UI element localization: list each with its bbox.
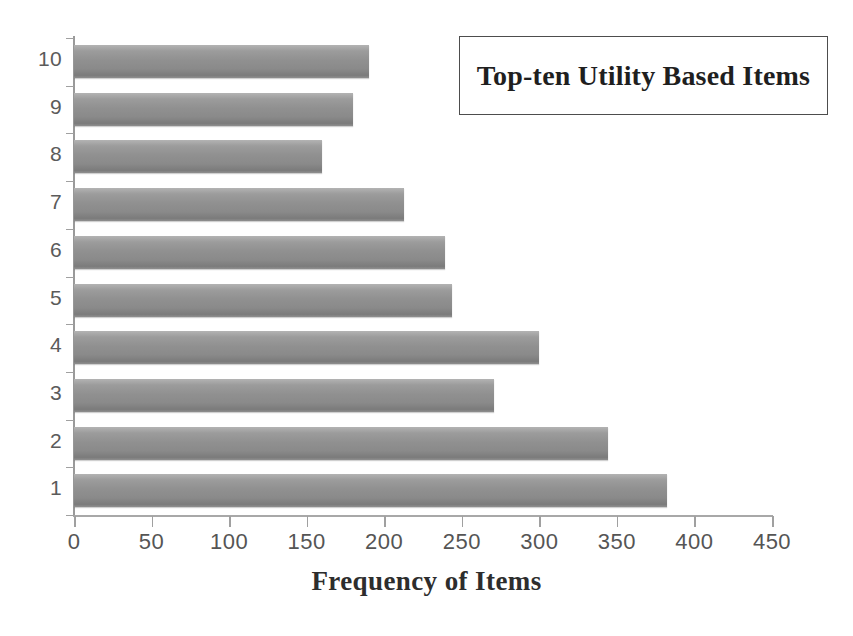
x-tick-label-200: 200	[349, 529, 419, 555]
y-tick-mark	[66, 515, 74, 516]
x-tick-mark	[617, 516, 619, 527]
bar-row	[74, 420, 772, 468]
x-tick-label-150: 150	[272, 529, 342, 555]
bar-9	[74, 93, 353, 126]
bar-row	[74, 181, 772, 229]
bar-2	[74, 427, 608, 460]
x-tick-mark	[462, 516, 464, 527]
x-tick-mark	[74, 516, 76, 527]
x-axis-line	[73, 515, 773, 517]
x-axis-title: Frequency of Items	[0, 566, 853, 597]
bar-chart: 10987654321 050100150200250300350400450 …	[0, 0, 853, 636]
y-tick-label-4: 4	[16, 333, 62, 357]
y-tick-mark	[66, 277, 74, 278]
bar-row	[74, 467, 772, 515]
x-tick-mark	[772, 516, 774, 527]
x-tick-mark	[307, 516, 309, 527]
x-tick-label-450: 450	[737, 529, 807, 555]
y-tick-mark	[66, 372, 74, 373]
y-axis-tick-labels: 10987654321	[0, 38, 62, 515]
x-tick-label-400: 400	[659, 529, 729, 555]
y-tick-mark	[66, 181, 74, 182]
x-tick-mark	[152, 516, 154, 527]
y-tick-label-5: 5	[16, 286, 62, 310]
x-tick-mark	[539, 516, 541, 527]
y-tick-label-7: 7	[16, 190, 62, 214]
bar-8	[74, 140, 322, 173]
y-tick-mark	[66, 420, 74, 421]
bar-row	[74, 133, 772, 181]
y-tick-label-3: 3	[16, 381, 62, 405]
y-tick-label-8: 8	[16, 142, 62, 166]
y-tick-mark	[66, 229, 74, 230]
y-tick-label-1: 1	[16, 476, 62, 500]
x-tick-mark	[384, 516, 386, 527]
bar-row	[74, 372, 772, 420]
x-tick-label-300: 300	[504, 529, 574, 555]
bar-4	[74, 331, 539, 364]
y-tick-mark	[66, 133, 74, 134]
y-tick-mark	[66, 86, 74, 87]
bar-row	[74, 229, 772, 277]
x-tick-label-350: 350	[582, 529, 652, 555]
y-tick-label-6: 6	[16, 238, 62, 262]
x-tick-label-0: 0	[39, 529, 109, 555]
bar-10	[74, 45, 369, 78]
bar-row	[74, 277, 772, 325]
legend-box: Top-ten Utility Based Items	[459, 36, 828, 115]
x-tick-label-250: 250	[427, 529, 497, 555]
bar-3	[74, 379, 494, 412]
y-tick-label-10: 10	[16, 47, 62, 71]
bar-1	[74, 474, 667, 507]
y-tick-mark	[66, 38, 74, 39]
y-tick-label-9: 9	[16, 95, 62, 119]
y-tick-label-2: 2	[16, 429, 62, 453]
bar-6	[74, 236, 445, 269]
y-tick-mark	[66, 324, 74, 325]
bar-row	[74, 324, 772, 372]
legend-label: Top-ten Utility Based Items	[477, 60, 810, 92]
bar-7	[74, 188, 404, 221]
x-tick-label-100: 100	[194, 529, 264, 555]
y-tick-mark	[66, 467, 74, 468]
x-tick-mark	[229, 516, 231, 527]
x-tick-label-50: 50	[117, 529, 187, 555]
x-tick-mark	[694, 516, 696, 527]
bar-5	[74, 284, 452, 317]
